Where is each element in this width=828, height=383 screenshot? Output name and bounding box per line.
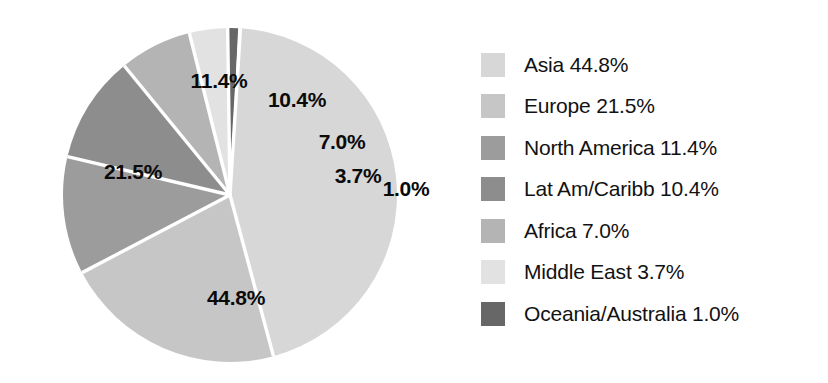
legend-item[interactable]: Europe 21.5% [481,86,821,128]
legend-swatch-icon [481,136,505,160]
legend-item[interactable]: Lat Am/Caribb 10.4% [481,169,821,211]
legend-swatch-icon [481,177,505,201]
legend-swatch-icon [481,219,505,243]
pie-slice-percent-label: 7.0% [319,130,366,154]
legend-item-label: Africa 7.0% [524,219,629,243]
legend-item[interactable]: Africa 7.0% [481,210,821,252]
legend-item[interactable]: Middle East 3.7% [481,252,821,294]
pie-slice-percent-label: 10.4% [268,88,326,112]
pie-slice-percent-label: 21.5% [104,160,162,184]
pie-slice-percent-label: 3.7% [335,164,382,188]
legend-swatch-icon [481,260,505,284]
legend-swatch-icon [481,302,505,326]
legend-item[interactable]: Oceania/Australia 1.0% [481,293,821,335]
pie-slice-percent-label: 44.8% [207,286,265,310]
pie-svg [0,0,440,383]
legend-swatch-icon [481,53,505,77]
pie-slice-percent-label: 11.4% [191,69,248,93]
legend-item-label: Lat Am/Caribb 10.4% [524,177,719,201]
legend-item-label: Asia 44.8% [524,53,628,77]
legend-item-label: Europe 21.5% [524,94,655,118]
pie-slice-percent-label: 1.0% [383,177,430,201]
legend-item-label: Oceania/Australia 1.0% [524,302,739,326]
legend-swatch-icon [481,94,505,118]
pie-chart-figure: 44.8%21.5%11.4%10.4%7.0%3.7%1.0% Asia 44… [0,0,828,383]
chart-legend: Asia 44.8%Europe 21.5%North America 11.4… [481,44,821,335]
pie-plot-area: 44.8%21.5%11.4%10.4%7.0%3.7%1.0% [0,0,440,383]
pie-slice-separator [228,28,230,195]
legend-item[interactable]: Asia 44.8% [481,44,821,86]
legend-item-label: Middle East 3.7% [524,260,684,284]
legend-item[interactable]: North America 11.4% [481,127,821,169]
legend-item-label: North America 11.4% [524,136,717,160]
